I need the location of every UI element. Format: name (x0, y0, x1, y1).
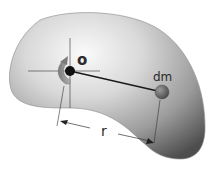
distance-label: r (101, 123, 107, 139)
pivot-point (65, 66, 75, 76)
dimension-arrow-left (64, 122, 90, 128)
mass-element-ball (155, 85, 169, 99)
arrowhead-left-icon (60, 120, 68, 125)
rigid-body-shape (9, 13, 205, 159)
moment-of-inertia-diagram: o dm r (0, 0, 218, 172)
mass-element-label: dm (153, 70, 172, 84)
pivot-label: o (77, 51, 87, 69)
